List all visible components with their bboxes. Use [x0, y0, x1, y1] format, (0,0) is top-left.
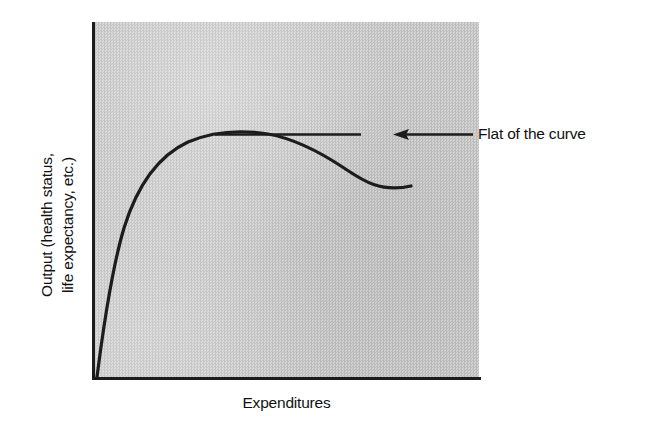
flat-of-the-curve-annotation: Flat of the curve	[478, 125, 586, 143]
y-axis-label: Output (health status, life expectancy, …	[36, 105, 78, 345]
y-axis-label-line-1: Output (health status,	[36, 105, 57, 345]
y-axis-label-line-2: life expectancy, etc.)	[57, 105, 78, 345]
left-arrow	[393, 129, 473, 140]
curve-overlay	[0, 0, 654, 424]
x-axis-label: Expenditures	[94, 394, 479, 412]
figure-canvas: Output (health status, life expectancy, …	[0, 0, 654, 424]
production-function-curve	[97, 132, 411, 377]
